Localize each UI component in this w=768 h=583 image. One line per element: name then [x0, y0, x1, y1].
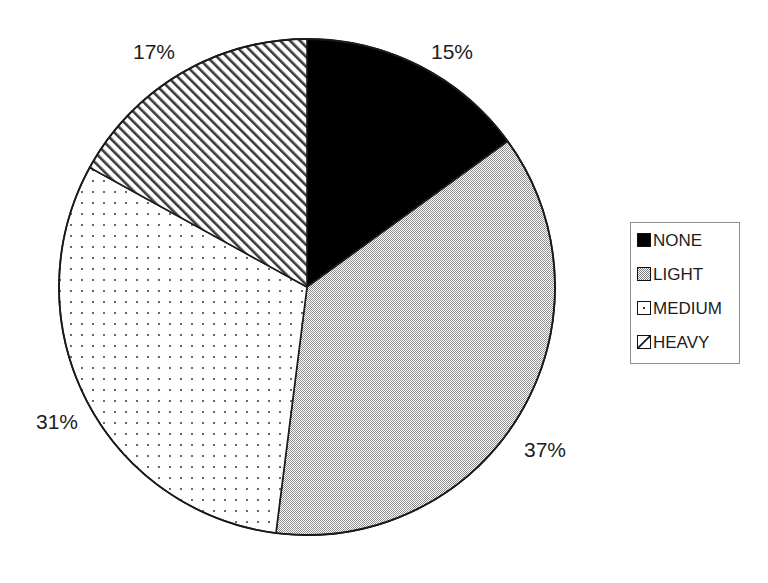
pie-value-label-heavy: 17%: [133, 40, 175, 64]
legend-swatch-light-icon: [637, 267, 651, 281]
legend-swatch-none-icon: [637, 233, 651, 247]
pie-value-label-medium: 31%: [36, 410, 78, 434]
legend-item-medium: MEDIUM: [637, 299, 722, 317]
legend-label-heavy: HEAVY: [653, 334, 709, 351]
legend-item-heavy: HEAVY: [637, 333, 709, 351]
legend-swatch-heavy-icon: [637, 335, 651, 349]
legend-label-medium: MEDIUM: [653, 300, 722, 317]
pie-chart: 17% 15% 37% 31% NONE LIGHT MEDIUM: [0, 0, 768, 583]
legend-item-light: LIGHT: [637, 265, 703, 283]
pie-value-label-none: 15%: [431, 40, 473, 64]
legend-label-none: NONE: [653, 232, 702, 249]
legend-item-none: NONE: [637, 231, 702, 249]
chart-legend: NONE LIGHT MEDIUM: [630, 222, 740, 364]
pie-value-label-light: 37%: [524, 438, 566, 462]
legend-label-light: LIGHT: [653, 266, 703, 283]
legend-swatch-medium-icon: [637, 301, 651, 315]
